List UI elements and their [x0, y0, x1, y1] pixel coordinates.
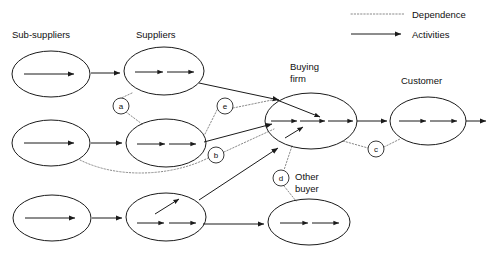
- internal-activity-arrow-4: [277, 100, 320, 117]
- node-outline: [268, 199, 350, 245]
- node-buying-firm[interactable]: [265, 93, 357, 149]
- label-sub-suppliers: Sub-suppliers: [12, 29, 70, 40]
- dep-link-b-right: [224, 129, 274, 152]
- label-other-buyer-line2: buyer: [295, 183, 319, 194]
- dependence-marker-a[interactable]: a: [113, 98, 129, 114]
- dep-link-c-right: [384, 139, 400, 147]
- activity-links: [91, 73, 486, 224]
- dep-link-c-left: [343, 141, 368, 148]
- label-customer: Customer: [401, 75, 442, 86]
- dep-link-e-left: [205, 110, 217, 134]
- label-other-buyer-line1: Other: [295, 171, 319, 182]
- supply-network-diagram: Dependence Activities Sub-suppliers Supp…: [0, 0, 491, 258]
- dependence-marker-d[interactable]: d: [273, 170, 289, 186]
- legend: Dependence Activities: [351, 9, 466, 40]
- node-sub-supplier-2[interactable]: [12, 120, 90, 166]
- legend-activities-label: Activities: [412, 29, 450, 40]
- node-supplier-3[interactable]: [126, 193, 206, 241]
- marker-label: d: [279, 174, 283, 183]
- node-supplier-2[interactable]: [126, 119, 206, 167]
- dependence-marker-b[interactable]: b: [208, 147, 224, 163]
- activity-link-sup2-buying: [204, 124, 272, 142]
- dep-link-d-upper: [284, 146, 292, 170]
- label-buying-firm-line2: firm: [290, 73, 306, 84]
- dependence-marker-e[interactable]: e: [217, 98, 233, 114]
- marker-label: b: [214, 151, 219, 160]
- dep-link-b-left: [80, 158, 208, 173]
- activity-link-sup1-buying: [199, 83, 279, 100]
- dep-link-a-lower: [126, 112, 142, 124]
- dependence-marker-c[interactable]: c: [368, 141, 384, 157]
- dep-link-e-right: [233, 100, 272, 108]
- marker-label: e: [223, 102, 228, 111]
- node-outline: [124, 47, 204, 95]
- node-sub-supplier-3[interactable]: [13, 195, 91, 241]
- marker-label: c: [374, 145, 378, 154]
- marker-label: a: [119, 102, 124, 111]
- label-buying-firm-line1: Buying: [290, 61, 319, 72]
- label-suppliers: Suppliers: [136, 29, 176, 40]
- legend-dependence-label: Dependence: [412, 9, 466, 20]
- node-sub-supplier-1[interactable]: [12, 51, 90, 97]
- internal-activity-arrow-5: [285, 127, 303, 138]
- node-other-buyer[interactable]: [268, 199, 350, 245]
- node-supplier-1[interactable]: [124, 47, 204, 95]
- node-outline: [126, 193, 206, 241]
- internal-activity-arrow-3: [155, 199, 179, 214]
- node-customer[interactable]: [390, 97, 466, 145]
- node-outline: [126, 119, 206, 167]
